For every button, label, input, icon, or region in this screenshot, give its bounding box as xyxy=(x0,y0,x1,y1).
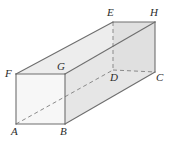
vertex-label-G: G xyxy=(57,61,65,72)
vertex-label-B: B xyxy=(60,126,67,137)
vertex-label-A: A xyxy=(11,126,18,137)
face-back-EDCH xyxy=(113,22,155,72)
vertex-label-H: H xyxy=(150,7,158,18)
vertex-label-C: C xyxy=(156,72,163,83)
face-front-AFGB xyxy=(16,74,65,124)
vertex-label-F: F xyxy=(5,68,12,79)
figure-container: A B C D E F G H xyxy=(0,0,170,146)
vertex-label-E: E xyxy=(107,7,114,18)
rectangular-prism-svg xyxy=(0,0,170,146)
vertex-label-D: D xyxy=(110,72,118,83)
